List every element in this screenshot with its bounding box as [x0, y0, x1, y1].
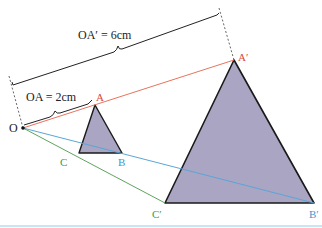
- label-o: O: [9, 121, 18, 135]
- label-b-prime: B′: [309, 208, 319, 220]
- label-a: A: [96, 91, 104, 103]
- enlargement-diagram: O A B C A′ B′ C′ OA′ = 6cm OA = 2cm: [0, 0, 322, 228]
- label-c-prime: C′: [152, 208, 162, 220]
- label-a-prime: A′: [238, 51, 248, 63]
- measure-oa: OA = 2cm: [26, 90, 77, 104]
- center-point-o: [21, 126, 25, 130]
- image-triangle: [165, 60, 314, 203]
- dashed-marker-a-prime: [219, 8, 234, 60]
- measure-oa-prime: OA′ = 6cm: [78, 28, 132, 42]
- label-c: C: [60, 156, 67, 168]
- label-b: B: [118, 156, 125, 168]
- brace-end: [12, 82, 13, 85]
- brace-oa-prime: [13, 13, 219, 85]
- object-triangle: [79, 105, 122, 153]
